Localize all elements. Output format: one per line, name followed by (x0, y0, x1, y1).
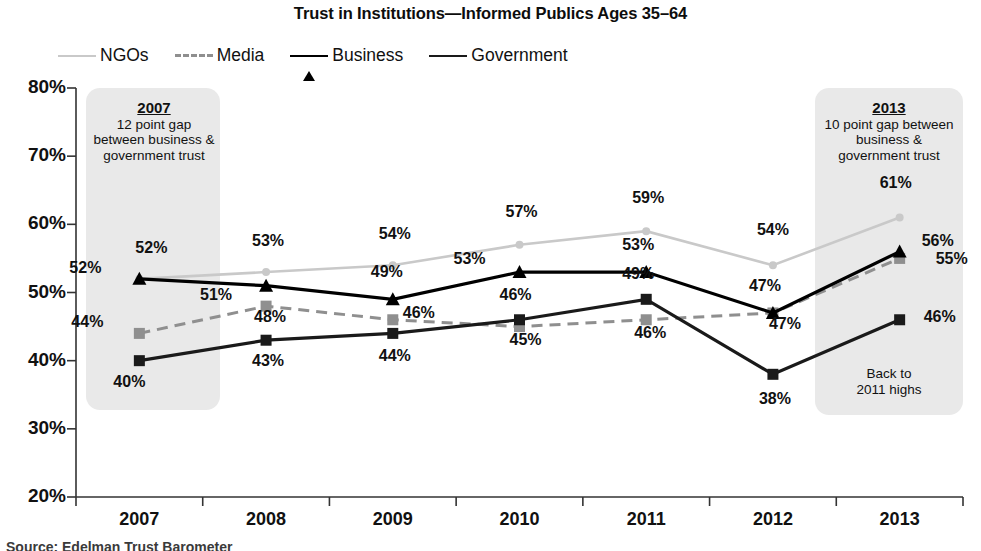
data-label: 56% (922, 232, 954, 250)
data-label: 45% (510, 331, 542, 349)
callout-2013-line2: business & (815, 132, 963, 148)
data-point-marker (516, 241, 524, 249)
y-axis-tick-label: 20% (4, 485, 66, 507)
callout-2007: 200712 point gapbetween business &govern… (80, 100, 228, 163)
data-label: 52% (135, 239, 167, 257)
data-label: 54% (379, 225, 411, 243)
callout-2013: 201310 point gap betweenbusiness &govern… (815, 100, 963, 163)
data-label: 61% (880, 174, 912, 192)
data-label: 43% (252, 352, 284, 370)
callout-2013-line1: 10 point gap between (815, 117, 963, 133)
data-label: 57% (506, 203, 538, 221)
data-label: 40% (113, 373, 145, 391)
data-label: 59% (632, 189, 664, 207)
x-axis-tick-label: 2009 (329, 509, 456, 530)
x-axis-tick-label: 2008 (203, 509, 330, 530)
chart-page: Trust in Institutions—Informed Publics A… (0, 0, 981, 551)
y-axis-tick-label: 30% (4, 417, 66, 439)
callout-2013-line3: government trust (815, 148, 963, 164)
data-label: 55% (936, 250, 968, 268)
plot-area: 80%70%60%50%40%30%20%2007200820092010201… (0, 0, 981, 551)
data-label: 47% (769, 315, 801, 333)
callout-2007-header: 2007 (80, 100, 228, 116)
data-point-marker (134, 328, 145, 339)
x-axis-tick-label: 2013 (836, 509, 963, 530)
callout-2007-line3: government trust (80, 148, 228, 164)
data-label: 51% (200, 286, 232, 304)
note-2013-line1: Back to (818, 366, 960, 382)
data-label: 47% (749, 277, 781, 295)
data-point-marker (514, 314, 525, 325)
note-2013-line2: 2011 highs (818, 382, 960, 398)
data-point-marker (641, 294, 652, 305)
callout-2007-line1: 12 point gap (80, 117, 228, 133)
y-axis-tick-label: 70% (4, 144, 66, 166)
data-label: 49% (371, 263, 403, 281)
callout-2013-header: 2013 (815, 100, 963, 116)
data-label: 38% (759, 390, 791, 408)
data-point-marker (894, 314, 905, 325)
callout-2007-line2: between business & (80, 132, 228, 148)
y-axis-tick-label: 80% (4, 76, 66, 98)
y-axis-tick-label: 50% (4, 281, 66, 303)
source-note: Source: Edelman Trust Barometer (0, 539, 981, 551)
data-point-marker (767, 369, 778, 380)
data-point-marker (261, 335, 272, 346)
x-axis-tick-label: 2012 (710, 509, 837, 530)
y-axis-tick-label: 60% (4, 212, 66, 234)
data-point-marker (769, 261, 777, 269)
data-label: 46% (924, 308, 956, 326)
data-label: 46% (634, 324, 666, 342)
data-label: 54% (757, 221, 789, 239)
data-label: 53% (252, 232, 284, 250)
x-axis-tick-label: 2007 (76, 509, 203, 530)
data-point-marker (387, 314, 398, 325)
data-label: 52% (69, 259, 101, 277)
data-label: 46% (500, 286, 532, 304)
data-label: 49% (622, 265, 654, 283)
note-2013-highs: Back to2011 highs (818, 366, 960, 398)
data-point-marker (134, 355, 145, 366)
x-axis-tick-label: 2010 (456, 509, 583, 530)
data-label: 44% (379, 347, 411, 365)
data-label: 48% (254, 308, 286, 326)
x-axis-tick-label: 2011 (583, 509, 710, 530)
chart-svg (0, 0, 981, 551)
data-point-marker (262, 268, 270, 276)
data-point-marker (893, 245, 907, 258)
y-axis-tick-label: 40% (4, 349, 66, 371)
data-point-marker (896, 214, 904, 222)
data-label: 53% (622, 236, 654, 254)
data-label: 53% (454, 250, 486, 268)
data-point-marker (387, 328, 398, 339)
series-business (132, 245, 906, 319)
data-label: 44% (71, 313, 103, 331)
data-point-marker (642, 227, 650, 235)
data-label: 46% (403, 304, 435, 322)
